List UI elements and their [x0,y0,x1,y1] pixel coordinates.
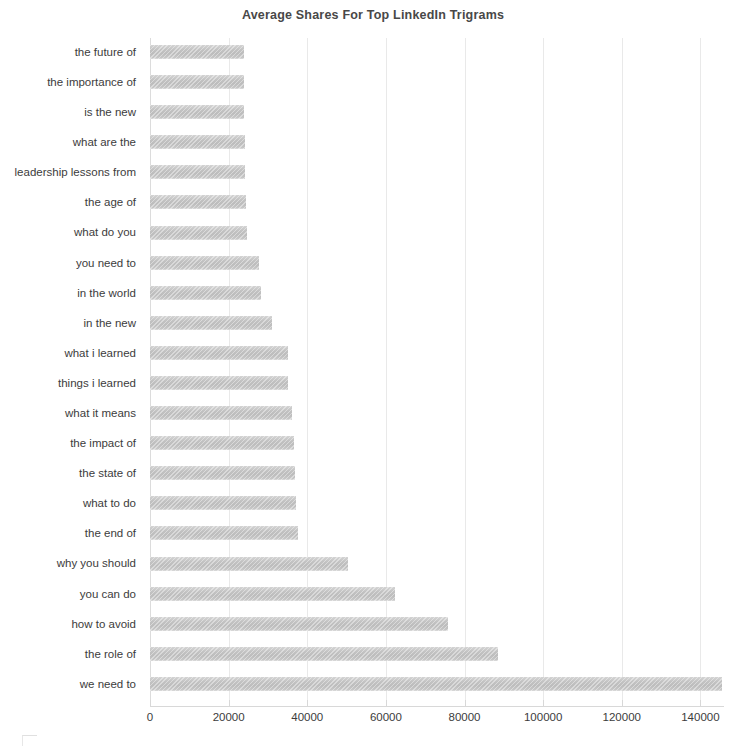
bar-row [150,188,724,217]
y-axis-label: in the new [0,309,136,338]
y-axis-label: what it means [0,399,136,428]
corner-mark-decoration [22,735,37,746]
bar [150,256,259,270]
bar-row [150,158,724,187]
bar-row [150,369,724,398]
bar [150,226,247,240]
x-tick-label: 0 [147,711,153,723]
y-axis-label: things i learned [0,369,136,398]
y-axis-label: leadership lessons from [0,158,136,187]
bar-row [150,550,724,579]
bar [150,45,244,59]
bar [150,376,288,390]
bar-row [150,429,724,458]
bar-row [150,309,724,338]
bar [150,346,288,360]
bar-row [150,128,724,157]
bar [150,617,448,631]
y-axis-label: the impact of [0,429,136,458]
bar [150,557,348,571]
bar-row [150,580,724,609]
bar [150,526,298,540]
x-tick-label: 40000 [291,711,323,723]
y-axis-label: what do you [0,219,136,248]
x-tick-mark [386,700,387,706]
y-axis-label: why you should [0,550,136,579]
bar [150,195,246,209]
bar [150,135,245,149]
bar-row [150,640,724,669]
bar [150,105,244,119]
bar [150,286,261,300]
y-axis-label: is the new [0,98,136,127]
y-axis-label: what to do [0,489,136,518]
bar [150,406,292,420]
y-axis-label: the future of [0,38,136,67]
x-axis-line [150,706,724,707]
bar-row [150,399,724,428]
x-tick-mark [307,700,308,706]
y-axis-label: in the world [0,279,136,308]
bar-row [150,68,724,97]
bar-row [150,249,724,278]
bar-row [150,339,724,368]
chart-title: Average Shares For Top LinkedIn Trigrams [0,8,746,22]
y-axis-label: the end of [0,519,136,548]
x-tick-label: 140000 [681,711,719,723]
y-axis-category-labels: the future ofthe importance ofis the new… [0,38,144,700]
bar-row [150,670,724,699]
x-tick-mark [465,700,466,706]
x-tick-mark [700,700,701,706]
chart-container: Average Shares For Top LinkedIn Trigrams… [0,0,746,750]
plot-area [150,38,724,700]
x-tick-label: 120000 [603,711,641,723]
bar [150,436,294,450]
y-axis-label: the age of [0,188,136,217]
bar [150,466,295,480]
bar-row [150,519,724,548]
x-tick-label: 60000 [370,711,402,723]
bar-row [150,219,724,248]
bar-row [150,459,724,488]
y-axis-label: we need to [0,670,136,699]
bar [150,496,296,510]
y-axis-label: what are the [0,128,136,157]
y-axis-label: the role of [0,640,136,669]
x-tick-label: 80000 [449,711,481,723]
bar [150,165,245,179]
bar [150,647,498,661]
bar [150,316,272,330]
bar [150,75,244,89]
x-tick-mark [543,700,544,706]
y-axis-label: you need to [0,249,136,278]
y-axis-label: what i learned [0,339,136,368]
y-axis-label: you can do [0,580,136,609]
bar [150,587,395,601]
bar-row [150,38,724,67]
y-axis-label: the state of [0,459,136,488]
x-tick-mark [229,700,230,706]
bar-row [150,279,724,308]
bar-row [150,610,724,639]
y-axis-label: the importance of [0,68,136,97]
bar [150,677,722,691]
y-axis-label: how to avoid [0,610,136,639]
x-tick-label: 100000 [524,711,562,723]
bar-row [150,489,724,518]
x-tick-mark [150,700,151,706]
x-tick-mark [622,700,623,706]
x-tick-label: 20000 [213,711,245,723]
bar-row [150,98,724,127]
